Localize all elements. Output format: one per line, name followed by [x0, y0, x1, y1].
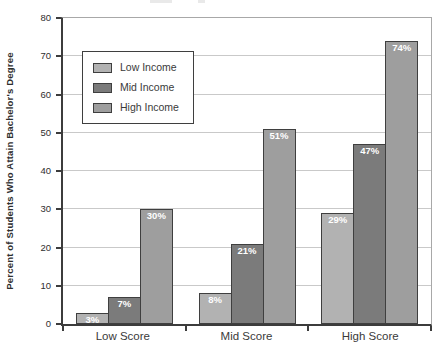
legend-swatch-mid-income	[93, 83, 112, 93]
bar-low-income-high-score: 29%	[321, 213, 354, 324]
y-tick-0	[56, 323, 61, 325]
bar-mid-income-mid-score: 21%	[231, 244, 264, 324]
y-tick-label-60: 60	[21, 89, 51, 100]
legend-label-high-income: High Income	[120, 102, 179, 113]
cropped-title-mark	[198, 0, 205, 3]
bar-value-label: 8%	[208, 294, 222, 305]
y-tick-50	[56, 132, 61, 134]
y-tick-label-0: 0	[21, 318, 51, 329]
bar-value-label: 74%	[392, 42, 411, 53]
bar-low-income-low-score: 3%	[76, 313, 109, 324]
bar-chart-figure: Percent of Students Who Attain Bachelor'…	[0, 0, 439, 359]
y-tick-label-50: 50	[21, 127, 51, 138]
bar-value-label: 47%	[360, 145, 379, 156]
legend-item-low-income: Low Income	[93, 62, 179, 73]
legend: Low IncomeMid IncomeHigh Income	[82, 51, 194, 124]
y-tick-20	[56, 247, 61, 249]
plot-area: 01020304050607080 3%7%30%8%21%51%29%47%7…	[61, 17, 432, 326]
y-axis-title-text: Percent of Students Who Attain Bachelor'…	[4, 52, 15, 289]
y-tick-label-40: 40	[21, 165, 51, 176]
y-tick-label-70: 70	[21, 50, 51, 61]
bar-mid-income-high-score: 47%	[353, 144, 386, 324]
bar-high-income-mid-score: 51%	[263, 129, 296, 324]
y-tick-40	[56, 170, 61, 172]
y-tick-80	[56, 17, 61, 19]
bar-value-label: 21%	[237, 245, 256, 256]
x-category-label-mid-score: Mid Score	[185, 330, 309, 342]
bar-value-label: 3%	[85, 314, 99, 325]
y-tick-70	[56, 55, 61, 57]
bar-high-income-high-score: 74%	[385, 41, 418, 324]
y-axis-title: Percent of Students Who Attain Bachelor'…	[0, 17, 18, 325]
legend-label-low-income: Low Income	[120, 62, 177, 73]
bar-value-label: 51%	[269, 130, 288, 141]
legend-swatch-low-income	[93, 63, 112, 73]
bar-group-mid-score: 8%21%51%	[186, 18, 309, 324]
cropped-title-mark	[150, 0, 172, 3]
legend-swatch-high-income	[93, 103, 112, 113]
y-tick-label-10: 10	[21, 280, 51, 291]
y-tick-30	[56, 208, 61, 210]
y-tick-label-20: 20	[21, 242, 51, 253]
x-category-label-high-score: High Score	[308, 330, 432, 342]
bar-low-income-mid-score: 8%	[199, 293, 232, 324]
bar-value-label: 29%	[328, 214, 347, 225]
bar-value-label: 30%	[147, 210, 166, 221]
legend-item-mid-income: Mid Income	[93, 82, 179, 93]
bar-group-high-score: 29%47%74%	[308, 18, 431, 324]
x-category-label-low-score: Low Score	[61, 330, 185, 342]
y-tick-10	[56, 285, 61, 287]
legend-items: Low IncomeMid IncomeHigh Income	[93, 62, 179, 113]
cropped-title-artifact	[150, 0, 205, 4]
legend-label-mid-income: Mid Income	[120, 82, 174, 93]
y-tick-label-80: 80	[21, 12, 51, 23]
legend-item-high-income: High Income	[93, 102, 179, 113]
bar-high-income-low-score: 30%	[140, 209, 173, 324]
x-category-labels: Low ScoreMid ScoreHigh Score	[61, 330, 432, 342]
y-tick-60	[56, 94, 61, 96]
y-tick-label-30: 30	[21, 203, 51, 214]
bar-mid-income-low-score: 7%	[108, 297, 141, 324]
bar-value-label: 7%	[117, 298, 131, 309]
